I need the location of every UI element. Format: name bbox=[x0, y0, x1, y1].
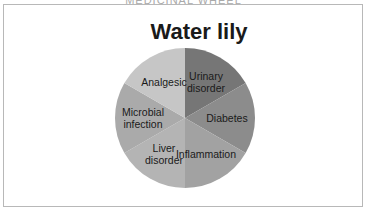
slice-label: Analgesic bbox=[141, 76, 187, 88]
slice-label: Inflammation bbox=[176, 148, 236, 160]
slice-label: Microbialinfection bbox=[122, 106, 164, 130]
pie-chart: UrinarydisorderDiabetesInflammationLiver… bbox=[0, 0, 367, 214]
slice-label: Diabetes bbox=[206, 112, 247, 124]
slice-label: Urinarydisorder bbox=[187, 70, 225, 94]
